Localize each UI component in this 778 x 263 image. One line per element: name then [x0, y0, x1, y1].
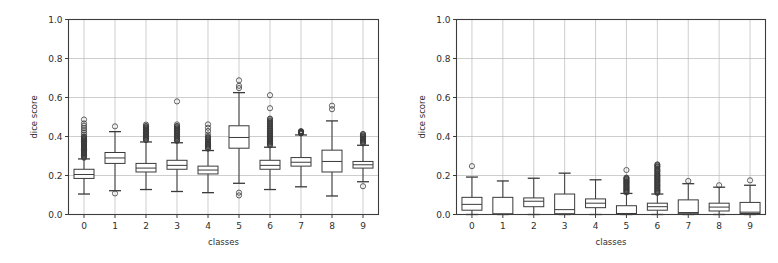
x-tick-label: 0	[469, 221, 475, 231]
box-iqr	[678, 200, 698, 214]
boxplot-item	[586, 180, 606, 215]
box-iqr	[74, 169, 94, 178]
boxplot-item	[74, 117, 94, 194]
y-tick-label: 0.0	[48, 210, 63, 220]
x-tick-label: 2	[143, 221, 149, 231]
box-iqr	[493, 197, 513, 214]
boxplot-item	[647, 162, 667, 215]
x-tick-label: 8	[716, 221, 722, 231]
box-iqr	[167, 160, 187, 169]
box-iqr	[616, 206, 636, 214]
panel-left: 0.00.20.40.60.81.00123456789classesdice …	[0, 0, 389, 263]
boxplot-item	[136, 122, 156, 190]
y-tick-label: 0.8	[48, 54, 63, 64]
x-tick-label: 2	[531, 221, 537, 231]
y-tick-label: 0.2	[436, 171, 450, 181]
boxplot-item	[493, 181, 513, 215]
y-axis-title: dice score	[29, 95, 39, 138]
x-tick-label: 7	[298, 221, 304, 231]
boxplot-item	[229, 78, 249, 198]
box-iqr	[260, 160, 280, 169]
x-tick-label: 6	[267, 221, 273, 231]
boxplot-item	[105, 124, 125, 196]
y-tick-label: 0.4	[436, 132, 451, 142]
right-boxplot-svg: 0.00.20.40.60.81.00123456789classesdice …	[389, 0, 778, 263]
x-tick-label: 7	[685, 221, 691, 231]
y-tick-label: 0.6	[48, 93, 63, 103]
plot-area: 0.00.20.40.60.81.00123456789classesdice …	[29, 15, 379, 247]
boxplot-item	[291, 129, 311, 187]
boxplot-item	[524, 178, 544, 214]
x-tick-label: 6	[654, 221, 660, 231]
boxplot-item	[555, 173, 575, 214]
boxplot-item	[353, 131, 373, 188]
x-tick-label: 4	[205, 221, 211, 231]
x-tick-label: 1	[500, 221, 506, 231]
y-tick-label: 0.6	[436, 93, 451, 103]
boxplot-item	[709, 183, 729, 215]
x-tick-label: 4	[593, 221, 599, 231]
x-tick-label: 3	[174, 221, 180, 231]
left-boxplot-svg: 0.00.20.40.60.81.00123456789classesdice …	[0, 0, 389, 263]
y-tick-label: 1.0	[436, 15, 451, 25]
y-tick-label: 0.4	[48, 132, 63, 142]
plot-area: 0.00.20.40.60.81.00123456789classesdice …	[417, 15, 766, 247]
x-axis-title: classes	[596, 237, 627, 247]
boxplot-item	[740, 178, 760, 215]
x-axis-title: classes	[208, 237, 239, 247]
box-iqr	[524, 198, 544, 207]
x-tick-label: 1	[112, 221, 118, 231]
panel-right: 0.00.20.40.60.81.00123456789classesdice …	[389, 0, 778, 263]
y-tick-label: 1.0	[48, 15, 63, 25]
box-iqr	[555, 194, 575, 214]
x-tick-label: 5	[236, 221, 242, 231]
y-tick-label: 0.0	[436, 210, 451, 220]
y-tick-label: 0.2	[48, 171, 62, 181]
figure-container: 0.00.20.40.60.81.00123456789classesdice …	[0, 0, 778, 263]
x-tick-label: 0	[81, 221, 87, 231]
x-tick-label: 3	[562, 221, 568, 231]
y-tick-label: 0.8	[436, 54, 451, 64]
x-tick-label: 9	[360, 221, 366, 231]
boxplot-item	[678, 178, 698, 214]
y-axis-title: dice score	[417, 95, 427, 138]
x-tick-label: 8	[329, 221, 335, 231]
x-tick-label: 9	[747, 221, 753, 231]
x-tick-label: 5	[624, 221, 630, 231]
box-iqr	[462, 197, 482, 210]
